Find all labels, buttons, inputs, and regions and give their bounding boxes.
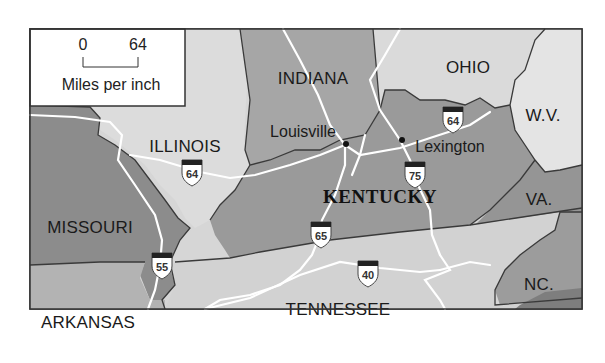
kentucky-map: 0 64 Miles per inch INDIANA OHIO ILLINOI… — [0, 0, 605, 363]
svg-text:55: 55 — [156, 261, 168, 273]
scale-start-label: 0 — [79, 36, 88, 53]
city-dot-louisville — [343, 141, 349, 147]
label-lexington: Lexington — [415, 138, 484, 155]
label-missouri: MISSOURI — [47, 218, 133, 237]
svg-text:64: 64 — [186, 168, 199, 180]
svg-text:75: 75 — [409, 170, 421, 182]
svg-text:40: 40 — [362, 269, 374, 281]
label-west-virginia: W.V. — [525, 106, 560, 125]
city-dot-lexington — [399, 137, 405, 143]
scale-end-label: 64 — [129, 36, 147, 53]
label-ohio: OHIO — [446, 58, 490, 77]
scale-legend: 0 64 Miles per inch — [30, 29, 185, 106]
scale-units-label: Miles per inch — [62, 76, 161, 93]
label-virginia: VA. — [526, 190, 553, 209]
svg-text:65: 65 — [315, 230, 327, 242]
label-north-carolina: NC. — [524, 275, 554, 294]
label-louisville: Louisville — [270, 123, 336, 140]
label-kentucky: KENTUCKY — [323, 186, 437, 207]
label-indiana: INDIANA — [278, 69, 349, 88]
label-illinois: ILLINOIS — [149, 137, 221, 156]
label-arkansas: ARKANSAS — [41, 313, 135, 332]
svg-text:64: 64 — [447, 115, 460, 127]
